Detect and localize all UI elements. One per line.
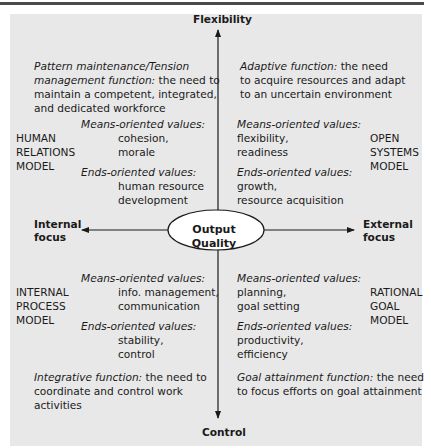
center-label: Output Quality	[172, 223, 256, 251]
means-value: readiness	[237, 146, 288, 159]
means-value: planning,	[237, 286, 286, 299]
function-description-line: coordinate and control work	[34, 385, 183, 398]
model-name: MODEL	[16, 160, 54, 173]
ends-value: resource acquisition	[237, 194, 344, 207]
function-description-line: to focus efforts on goal attainment	[237, 385, 422, 398]
ends-value: control	[118, 348, 155, 361]
model-name: GOAL	[370, 300, 400, 313]
axis-label-external: External	[363, 218, 413, 231]
model-name: MODEL	[370, 160, 408, 173]
model-name: RATIONAL	[370, 286, 422, 299]
ends-label: Ends-oriented values:	[237, 166, 352, 179]
means-value: communication	[118, 300, 200, 313]
function-description-line: maintain a competent, integrated,	[34, 88, 217, 101]
model-name: OPEN	[370, 132, 399, 145]
function-description-line: Goal attainment function: the need	[237, 371, 424, 384]
means-value: cohesion,	[118, 132, 169, 145]
means-value: morale	[118, 146, 155, 159]
axis-label-external-focus: focus	[363, 231, 395, 244]
function-description-line: to acquire resources and adapt	[240, 74, 405, 87]
function-description-line: Adaptive function: the need	[240, 60, 388, 73]
ends-value: stability,	[118, 334, 164, 347]
function-description-line: to an uncertain environment	[240, 88, 392, 101]
ends-label: Ends-oriented values:	[81, 166, 196, 179]
ends-value: efficiency	[237, 348, 288, 361]
model-name: INTERNAL	[16, 286, 69, 299]
ends-value: growth,	[237, 180, 277, 193]
model-name: PROCESS	[16, 300, 66, 313]
axis-label-internal-focus: focus	[34, 231, 66, 244]
function-description-line: Pattern maintenance/Tension	[34, 60, 189, 73]
axis-label-control: Control	[202, 426, 246, 439]
function-description-line: management function: the need to	[34, 74, 220, 87]
ends-value: human resource	[118, 180, 204, 193]
means-value: flexibility,	[237, 132, 289, 145]
ends-label: Ends-oriented values:	[81, 320, 196, 333]
means-value: info. management,	[118, 286, 219, 299]
model-name: MODEL	[16, 314, 54, 327]
ends-value: productivity,	[237, 334, 304, 347]
model-name: SYSTEMS	[370, 146, 419, 159]
function-description-line: Integrative function: the need to	[34, 371, 207, 384]
axis-label-flexibility: Flexibility	[193, 13, 252, 26]
model-name: RELATIONS	[16, 146, 75, 159]
means-value: goal setting	[237, 300, 300, 313]
ends-value: development	[118, 194, 188, 207]
axis-label-internal: Internal	[34, 218, 81, 231]
means-label: Means-oriented values:	[81, 118, 205, 131]
function-description-line: activities	[34, 399, 82, 412]
model-name: MODEL	[370, 314, 408, 327]
ends-label: Ends-oriented values:	[237, 320, 352, 333]
means-label: Means-oriented values:	[81, 272, 205, 285]
means-label: Means-oriented values:	[237, 272, 361, 285]
means-label: Means-oriented values:	[237, 118, 361, 131]
model-name: HUMAN	[16, 132, 56, 145]
function-description-line: and dedicated workforce	[34, 102, 166, 115]
